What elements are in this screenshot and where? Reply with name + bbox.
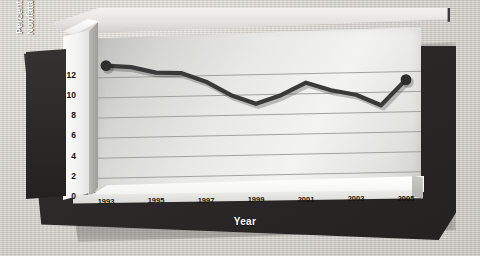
gridline	[96, 132, 421, 139]
x-tick-label: 2003	[336, 194, 376, 203]
y-tick-label: 0	[42, 191, 76, 201]
x-tick-label: 2001	[286, 195, 326, 204]
y-axis-pillar-side	[88, 22, 98, 202]
chart-figure: Percent of Violent Nonfatal Incidents 12…	[0, 0, 480, 256]
gridline	[96, 91, 421, 98]
data-point-marker	[401, 74, 412, 85]
x-tick-label: 1999	[236, 195, 276, 204]
y-tick-label: 10	[42, 90, 76, 100]
x-tick-label: 1993	[86, 197, 126, 206]
x-tick-label: 2005	[386, 194, 426, 203]
y-tick-label: 4	[42, 151, 76, 161]
y-axis-title: Percent of Violent Nonfatal Incidents	[14, 0, 36, 60]
y-tick-label: 6	[42, 130, 76, 140]
x-axis-title: Year	[200, 216, 290, 227]
y-tick-label: 2	[42, 171, 76, 181]
gridline	[96, 112, 421, 119]
x-tick-label: 1997	[186, 196, 226, 205]
y-tick-label: 12	[42, 70, 76, 80]
gridline-group	[96, 71, 421, 178]
data-series-group	[101, 60, 414, 108]
x-tick-label: 1995	[136, 196, 176, 205]
gridline	[96, 152, 421, 159]
gridline	[96, 172, 421, 179]
y-tick-label: 8	[42, 110, 76, 120]
data-point-marker	[101, 60, 112, 71]
